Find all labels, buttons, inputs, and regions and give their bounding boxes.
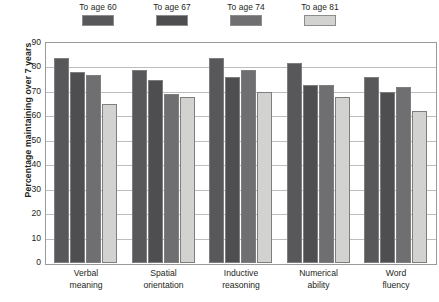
bar	[70, 72, 85, 263]
legend-label: To age 74	[210, 2, 282, 12]
y-tick-label: 50	[1, 136, 41, 144]
bar	[364, 77, 379, 263]
bar	[209, 58, 224, 263]
x-tick-label-line: Inductive	[202, 268, 280, 280]
bar	[164, 94, 179, 263]
x-tick-label-line: ability	[280, 280, 358, 292]
legend-label: To age 81	[284, 2, 356, 12]
y-tick-label: 90	[1, 38, 41, 46]
bar-group	[364, 43, 428, 263]
bar	[54, 58, 69, 263]
bars-layer	[46, 43, 435, 263]
x-tick-label: Wordfluency	[357, 268, 435, 291]
y-tick-label: 70	[1, 87, 41, 95]
legend-swatch	[156, 15, 188, 26]
bar	[225, 77, 240, 263]
bar	[396, 87, 411, 263]
y-tick-label: 80	[1, 62, 41, 70]
y-tick-label: 0	[1, 258, 41, 266]
bar	[241, 70, 256, 263]
x-tick-label: Spatialorientation	[125, 268, 203, 291]
bar	[132, 70, 147, 263]
legend-label: To age 67	[136, 2, 208, 12]
x-axis-ticks: VerbalmeaningSpatialorientationInductive…	[46, 268, 435, 300]
y-axis-ticks: 9080706050403020100	[0, 42, 41, 263]
x-tick-label: Inductivereasoning	[202, 268, 280, 291]
bar-group	[209, 43, 273, 263]
x-tick-label-line: Spatial	[125, 268, 203, 280]
x-tick-label: Verbalmeaning	[47, 268, 125, 291]
bar	[148, 80, 163, 263]
bar	[319, 85, 334, 263]
chart-legend: To age 60 To age 67 To age 74 To age 81	[62, 2, 362, 34]
legend-item-to-age-67: To age 67	[136, 2, 208, 26]
x-tick-label-line: reasoning	[202, 280, 280, 292]
y-tick-label: 60	[1, 111, 41, 119]
legend-item-to-age-60: To age 60	[62, 2, 134, 26]
x-tick-label-line: meaning	[47, 280, 125, 292]
legend-item-to-age-81: To age 81	[284, 2, 356, 26]
x-tick-label-line: orientation	[125, 280, 203, 292]
bar-group	[132, 43, 196, 263]
bar	[287, 63, 302, 263]
x-tick-label-line: Word	[357, 268, 435, 280]
y-tick-label: 20	[1, 209, 41, 217]
bar	[102, 104, 117, 263]
bar	[335, 97, 350, 263]
bar	[180, 97, 195, 263]
x-tick-label-line: Numerical	[280, 268, 358, 280]
legend-swatch	[82, 15, 114, 26]
x-tick-label: Numericalability	[280, 268, 358, 291]
legend-swatch	[230, 15, 262, 26]
bar-chart: To age 60 To age 67 To age 74 To age 81 …	[0, 0, 439, 302]
legend-swatch	[304, 15, 336, 26]
bar	[257, 92, 272, 263]
bar	[380, 92, 395, 263]
legend-item-to-age-74: To age 74	[210, 2, 282, 26]
y-tick-label: 40	[1, 160, 41, 168]
legend-label: To age 60	[62, 2, 134, 12]
bar-group	[287, 43, 351, 263]
bar	[412, 111, 427, 263]
y-tick-label: 30	[1, 185, 41, 193]
bar	[303, 85, 318, 263]
bar-group	[54, 43, 118, 263]
bar	[86, 75, 101, 263]
x-tick-label-line: Verbal	[47, 268, 125, 280]
x-tick-label-line: fluency	[357, 280, 435, 292]
y-tick-label: 10	[1, 234, 41, 242]
